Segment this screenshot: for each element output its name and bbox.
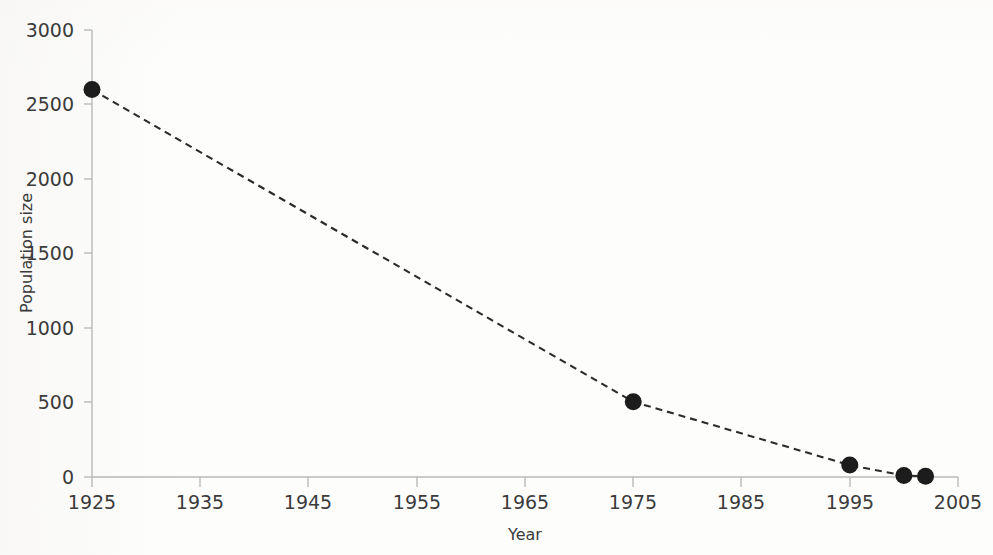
data-point-marker bbox=[625, 393, 642, 410]
x-tick-label: 1945 bbox=[284, 491, 332, 513]
y-tick-label: 2000 bbox=[26, 168, 74, 190]
x-tick-label: 2005 bbox=[934, 491, 982, 513]
y-tick-label: 3000 bbox=[26, 19, 74, 41]
x-tick-label: 1935 bbox=[176, 491, 224, 513]
data-point-marker bbox=[841, 457, 858, 474]
x-tick-label: 1995 bbox=[826, 491, 874, 513]
y-tick-label: 2500 bbox=[26, 93, 74, 115]
y-tick-label: 0 bbox=[62, 466, 74, 488]
data-point-marker bbox=[917, 468, 934, 485]
series-markers bbox=[84, 81, 935, 485]
chart-page: 3000 2500 2000 1500 1000 500 0 1925 1935… bbox=[0, 0, 993, 555]
data-point-marker bbox=[84, 81, 101, 98]
y-tick-label: 500 bbox=[38, 391, 74, 413]
x-tick-label: 1975 bbox=[609, 491, 657, 513]
y-tick-label: 1000 bbox=[26, 317, 74, 339]
data-series-population bbox=[84, 81, 935, 485]
population-decline-line-chart: 3000 2500 2000 1500 1000 500 0 1925 1935… bbox=[0, 0, 993, 555]
x-tick-label: 1965 bbox=[501, 491, 549, 513]
x-tick-label: 1925 bbox=[68, 491, 116, 513]
x-axis-ticks bbox=[92, 477, 958, 487]
x-tick-label: 1955 bbox=[393, 491, 441, 513]
series-line-dashed bbox=[92, 90, 926, 477]
data-point-marker bbox=[895, 467, 912, 484]
y-axis-title: Population size bbox=[17, 193, 36, 313]
x-axis-title: Year bbox=[507, 525, 542, 544]
x-axis-tick-labels: 1925 1935 1945 1955 1965 1975 1985 1995 … bbox=[68, 491, 982, 513]
x-tick-label: 1985 bbox=[717, 491, 765, 513]
